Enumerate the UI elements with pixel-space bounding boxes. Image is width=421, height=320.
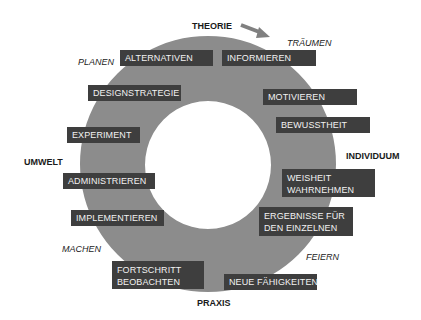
axis-label-individuum: INDIVIDUUM xyxy=(346,151,400,161)
box-label: DESIGNSTRATEGIE xyxy=(93,88,179,98)
box-ergebnisse-fuer-den-einzelnen: ERGEBNISSE FÜR DEN EINZELNEN xyxy=(259,207,353,236)
box-label: ADMINISTRIEREN xyxy=(68,176,146,186)
axis-label-umwelt: UMWELT xyxy=(24,157,63,167)
box-label-line2: DEN EINZELNEN xyxy=(264,222,348,234)
box-label-line2: BEOBACHTEN xyxy=(117,276,199,288)
arrow-icon xyxy=(241,25,270,38)
box-weisheit-wahrnehmen: WEISHEIT WAHRNEHMEN xyxy=(282,169,375,197)
box-label-line1: ERGEBNISSE FÜR xyxy=(264,210,348,222)
box-label-line1: WEISHEIT xyxy=(287,172,370,184)
axis-label-theorie: THEORIE xyxy=(192,21,232,31)
box-label: IMPLEMENTIEREN xyxy=(76,213,157,223)
phase-label-planen: PLANEN xyxy=(78,57,114,67)
box-administrieren: ADMINISTRIEREN xyxy=(63,173,155,189)
box-alternativen: ALTERNATIVEN xyxy=(120,50,213,66)
box-label: MOTIVIEREN xyxy=(268,92,325,102)
box-label: EXPERIMENT xyxy=(72,130,132,140)
box-label-line1: FORTSCHRITT xyxy=(117,264,199,276)
phase-label-feiern: FEIERN xyxy=(306,252,339,262)
box-motivieren: MOTIVIEREN xyxy=(263,89,357,105)
box-implementieren: IMPLEMENTIEREN xyxy=(71,210,164,226)
phase-label-traeumen: TRÄUMEN xyxy=(287,38,332,48)
box-experiment: EXPERIMENT xyxy=(67,127,140,143)
box-neue-faehigkeiten: NEUE FÄHIGKEITEN xyxy=(224,274,317,290)
box-label: ALTERNATIVEN xyxy=(125,53,193,63)
box-fortschritt-beobachten: FORTSCHRITT BEOBACHTEN xyxy=(112,261,204,289)
phase-label-machen: MACHEN xyxy=(62,244,101,254)
cycle-diagram: THEORIE PRAXIS UMWELT INDIVIDUUM TRÄUMEN… xyxy=(0,0,421,320)
box-label: NEUE FÄHIGKEITEN xyxy=(229,277,318,287)
box-informieren: INFORMIEREN xyxy=(222,50,316,66)
donut-ring xyxy=(80,36,336,292)
box-label: BEWUSSTHEIT xyxy=(281,120,347,130)
box-bewusstheit: BEWUSSTHEIT xyxy=(276,117,370,133)
box-label: INFORMIEREN xyxy=(227,53,291,63)
axis-label-praxis: PRAXIS xyxy=(197,298,231,308)
box-designstrategie: DESIGNSTRATEGIE xyxy=(88,85,181,101)
box-label-line2: WAHRNEHMEN xyxy=(287,184,370,196)
